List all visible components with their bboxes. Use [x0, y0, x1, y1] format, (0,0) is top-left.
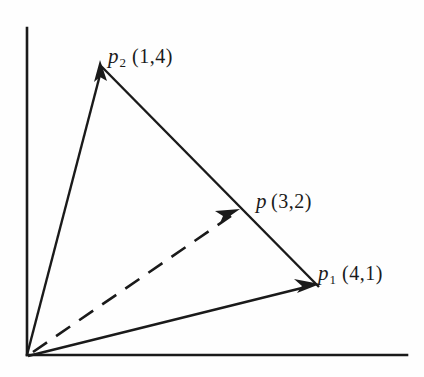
label-p-symbol: p — [256, 189, 267, 213]
vector-p1-line — [28, 286, 310, 356]
label-p1: p1(4,1) — [318, 261, 383, 288]
segment-p2-to-p1 — [100, 65, 319, 287]
vector-p-dashed-line — [33, 216, 231, 352]
label-p1-symbol: p — [318, 261, 329, 285]
label-p2-coords: (1,4) — [132, 45, 173, 67]
label-p1-subscript: 1 — [330, 272, 337, 287]
label-p: p(3,2) — [256, 189, 312, 214]
figure-canvas — [0, 0, 424, 377]
label-p2: p2(1,4) — [108, 44, 173, 71]
label-p1-coords: (4,1) — [342, 262, 383, 284]
label-p2-symbol: p — [108, 44, 119, 68]
vector-diagram-figure: p2(1,4) p(3,2) p1(4,1) — [0, 0, 424, 377]
label-p-coords: (3,2) — [271, 190, 312, 212]
vector-p-arrowhead — [215, 209, 240, 223]
vector-p1-arrowhead — [294, 279, 320, 293]
label-p2-subscript: 2 — [120, 55, 127, 70]
